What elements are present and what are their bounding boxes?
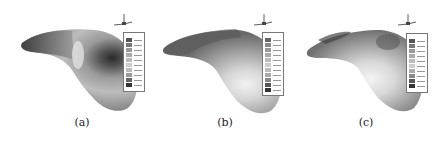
colorbar-legend-b	[262, 32, 284, 96]
axis-triad-icon	[112, 12, 134, 30]
axis-triad-icon	[396, 12, 418, 30]
panel-c: (c)	[296, 0, 444, 155]
caption-c: (c)	[346, 116, 386, 129]
panel-b: (b)	[148, 0, 296, 155]
caption-b: (b)	[205, 116, 245, 129]
colorbar-legend-a	[123, 32, 145, 92]
caption-a: (a)	[62, 116, 102, 129]
colorbar-legend-c	[406, 33, 428, 93]
axis-triad-icon	[252, 12, 274, 30]
panel-a: (a)	[0, 0, 148, 155]
